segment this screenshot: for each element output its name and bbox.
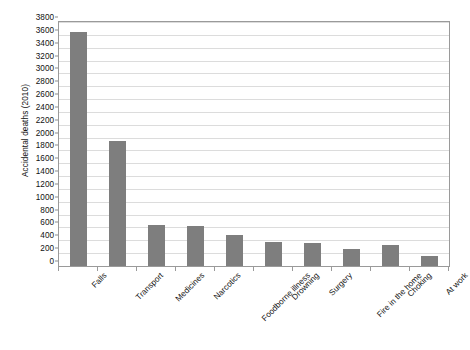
x-axis-tick-label: Falls xyxy=(90,271,109,290)
bar-medicines[interactable] xyxy=(148,225,166,266)
bar-narcotics[interactable] xyxy=(187,226,205,266)
y-axis-tick-label: 2200 xyxy=(22,115,54,124)
y-axis-tick-label: 2600 xyxy=(22,90,54,99)
bar-slot xyxy=(332,22,371,266)
bar-choking[interactable] xyxy=(382,245,400,266)
y-axis-tick-label: 3400 xyxy=(22,38,54,47)
bar-slot xyxy=(176,22,215,266)
bars-layer xyxy=(59,22,449,266)
y-axis-tick-label: 400 xyxy=(22,231,54,240)
y-axis-tick-label: 1600 xyxy=(22,154,54,163)
y-axis-tick-label: 1400 xyxy=(22,167,54,176)
x-axis-tick-label: At work xyxy=(443,271,469,297)
bar-slot xyxy=(293,22,332,266)
y-axis-tick-label: 3000 xyxy=(22,64,54,73)
x-axis-tick-label: Foodborne illness xyxy=(259,271,312,324)
y-axis-tick-label: 0 xyxy=(22,257,54,266)
y-axis-tick-label: 2400 xyxy=(22,102,54,111)
y-axis-tick-label: 2000 xyxy=(22,128,54,137)
y-axis-tick-label: 600 xyxy=(22,218,54,227)
bar-drowning[interactable] xyxy=(265,242,283,266)
bar-slot xyxy=(215,22,254,266)
y-axis-tick-label: 1200 xyxy=(22,179,54,188)
bar-at-work[interactable] xyxy=(421,256,439,266)
y-axis-tick-label: 2800 xyxy=(22,77,54,86)
bar-transport[interactable] xyxy=(109,141,127,266)
bar-falls[interactable] xyxy=(70,32,88,266)
y-axis-tick-label: 800 xyxy=(22,205,54,214)
bar-slot xyxy=(59,22,98,266)
y-axis-tick-label: 200 xyxy=(22,244,54,253)
x-axis-tick-label: Transport xyxy=(134,271,166,303)
y-axis-tick-label: 1000 xyxy=(22,192,54,201)
bar-slot xyxy=(98,22,137,266)
x-axis-tick-labels: FallsTransportMedicinesNarcoticsFoodborn… xyxy=(58,271,450,349)
x-axis-tick-label: Medicines xyxy=(173,271,206,304)
bar-surgery[interactable] xyxy=(304,243,322,266)
y-axis-tick-label: 1800 xyxy=(22,141,54,150)
x-axis-tick-label: Narcotics xyxy=(211,271,242,302)
y-axis-tick-label: 3800 xyxy=(22,13,54,22)
bar-slot xyxy=(410,22,449,266)
bar-slot xyxy=(254,22,293,266)
bar-chart-figure: Accidental deaths (2010) 020040060080010… xyxy=(0,0,470,350)
y-axis-tick-label: 3200 xyxy=(22,51,54,60)
y-axis-tick-label: 3600 xyxy=(22,25,54,34)
bar-foodborne-illness[interactable] xyxy=(226,235,244,266)
bar-slot xyxy=(371,22,410,266)
y-axis-tick-labels: 0200400600800100012001400160018002000220… xyxy=(22,17,54,266)
bar-fire-in-the-home[interactable] xyxy=(343,249,361,266)
plot-area xyxy=(58,21,450,267)
y-axis-tick-mark xyxy=(55,17,58,18)
bar-slot xyxy=(137,22,176,266)
x-axis-tick-label: Surgery xyxy=(327,271,354,298)
